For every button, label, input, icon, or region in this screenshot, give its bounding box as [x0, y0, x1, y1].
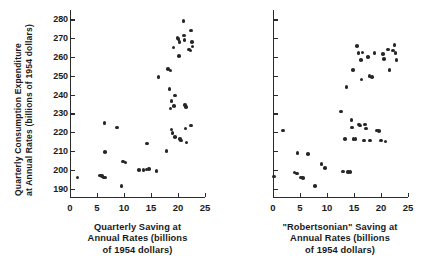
data-point: [377, 129, 381, 133]
data-point: [393, 43, 397, 47]
data-point: [115, 126, 119, 130]
data-point: [359, 58, 363, 62]
data-point: [178, 40, 182, 44]
x-axis-tick: [205, 193, 206, 197]
x-axis-tick: [327, 193, 328, 197]
data-point: [339, 110, 343, 114]
data-point: [345, 85, 349, 89]
y-axis-tick: [71, 57, 75, 58]
x-axis-tick: [151, 193, 152, 197]
data-point: [306, 152, 310, 156]
data-point: [394, 51, 398, 55]
data-point: [388, 68, 392, 72]
data-point: [182, 19, 186, 23]
y-axis-tick: [274, 19, 278, 20]
x-axis-tick-label: 20: [173, 202, 184, 213]
y-axis-tick-label: 230: [53, 108, 68, 118]
data-point: [301, 176, 305, 180]
x-axis-tick-labels-right: 0510152025: [273, 198, 408, 214]
data-point: [169, 69, 173, 73]
y-axis-tick: [71, 113, 75, 114]
panel-quarterly-saving: 190200210220230240250260270280 051015202…: [0, 0, 230, 276]
data-point: [362, 139, 366, 143]
x-axis-tick-label: 10: [322, 202, 333, 213]
x-axis-tick-labels-left: 0510152025: [70, 198, 205, 214]
data-point: [120, 184, 124, 188]
y-axis-tick: [71, 189, 75, 190]
y-axis-tick: [274, 38, 278, 39]
y-axis-tick-label: 220: [53, 127, 68, 137]
y-axis-tick: [274, 189, 278, 190]
data-point: [384, 140, 388, 144]
x-axis-tick: [124, 193, 125, 197]
data-point: [379, 139, 383, 143]
x-axis-tick: [408, 193, 409, 197]
y-axis-tick: [71, 38, 75, 39]
data-point: [281, 129, 285, 133]
x-axis-caption-right: "Robertsonian" Saving at Annual Rates (b…: [255, 222, 425, 256]
y-axis-tick: [274, 76, 278, 77]
y-axis-tick: [71, 19, 75, 20]
caption-right-line-3: of 1954 dollars): [255, 245, 425, 256]
data-point: [395, 58, 399, 62]
data-point: [323, 166, 327, 170]
y-axis-tick-label: 250: [53, 71, 68, 81]
x-axis-tick: [178, 193, 179, 197]
data-point: [360, 78, 364, 82]
data-point: [157, 75, 161, 79]
data-point: [386, 48, 390, 52]
data-point: [272, 175, 276, 179]
x-axis-tick: [300, 193, 301, 197]
x-axis-tick: [70, 193, 71, 197]
data-point: [373, 51, 377, 55]
y-axis-tick-label: 190: [53, 184, 68, 194]
y-axis-tick: [71, 151, 75, 152]
data-point: [313, 184, 317, 188]
data-point: [168, 87, 172, 91]
data-point: [368, 139, 372, 143]
data-point: [343, 137, 347, 141]
data-point: [358, 124, 362, 128]
x-axis-tick: [273, 193, 274, 197]
data-point: [191, 45, 195, 49]
data-point: [366, 55, 370, 59]
y-axis-tick: [71, 95, 75, 96]
data-point: [189, 49, 193, 53]
y-axis-tick-label: 270: [53, 33, 68, 43]
data-point: [177, 54, 181, 58]
data-point: [137, 168, 141, 172]
data-point: [363, 123, 367, 127]
data-point: [182, 34, 186, 38]
caption-right-line-2: Annual Rates (billions: [255, 233, 425, 244]
data-point: [341, 170, 345, 174]
y-axis-tick-label: 280: [53, 14, 68, 24]
x-axis-caption-left: Quarterly Saving at Annual Rates (billio…: [55, 222, 220, 256]
data-point: [348, 170, 352, 174]
data-point: [354, 137, 358, 141]
data-point: [165, 149, 169, 153]
data-point: [185, 141, 189, 145]
x-axis-tick-label: 25: [403, 202, 414, 213]
data-point: [173, 135, 177, 139]
data-point: [147, 167, 151, 171]
x-axis-tick-label: 15: [146, 202, 157, 213]
data-point: [355, 44, 359, 48]
data-point: [103, 176, 107, 180]
y-axis-tick: [274, 132, 278, 133]
y-axis-tick: [274, 57, 278, 58]
y-axis-tick-labels: 190200210220230240250260270280: [36, 10, 68, 198]
data-point: [184, 127, 188, 131]
y-axis-tick: [274, 95, 278, 96]
caption-left-line-3: of 1954 dollars): [55, 245, 220, 256]
data-point: [145, 142, 149, 146]
data-point: [296, 151, 300, 155]
data-point: [184, 105, 188, 109]
data-point: [76, 176, 80, 180]
data-point: [382, 57, 386, 61]
y-axis-tick-label: 260: [53, 52, 68, 62]
data-point: [364, 127, 368, 131]
data-point: [124, 161, 128, 165]
y-axis-tick: [274, 170, 278, 171]
data-point: [351, 68, 355, 72]
data-point: [183, 38, 187, 42]
